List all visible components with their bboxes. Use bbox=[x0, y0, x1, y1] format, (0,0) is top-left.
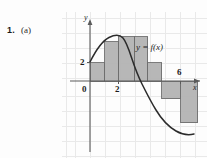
riemann-bar bbox=[91, 63, 105, 82]
riemann-bar bbox=[148, 63, 162, 82]
y-axis-label: y bbox=[84, 13, 88, 22]
riemann-sum-figure: y x 2 0 2 6 y = f(x) bbox=[62, 12, 207, 158]
function-label: y = f(x) bbox=[136, 42, 163, 52]
exercise-part-label: (a) bbox=[21, 25, 31, 35]
figure-page: 1. (a) bbox=[0, 0, 207, 158]
x-tick-label-6: 6 bbox=[177, 67, 182, 77]
riemann-bar bbox=[162, 82, 181, 99]
y-axis-arrowhead bbox=[88, 19, 93, 25]
exercise-number: 1. bbox=[7, 25, 15, 35]
x-tick-label-2: 2 bbox=[115, 84, 120, 94]
origin-label: 0 bbox=[82, 84, 87, 94]
y-tick-label-2: 2 bbox=[80, 57, 85, 67]
x-axis-label: x bbox=[193, 83, 197, 92]
riemann-bar bbox=[105, 42, 119, 82]
